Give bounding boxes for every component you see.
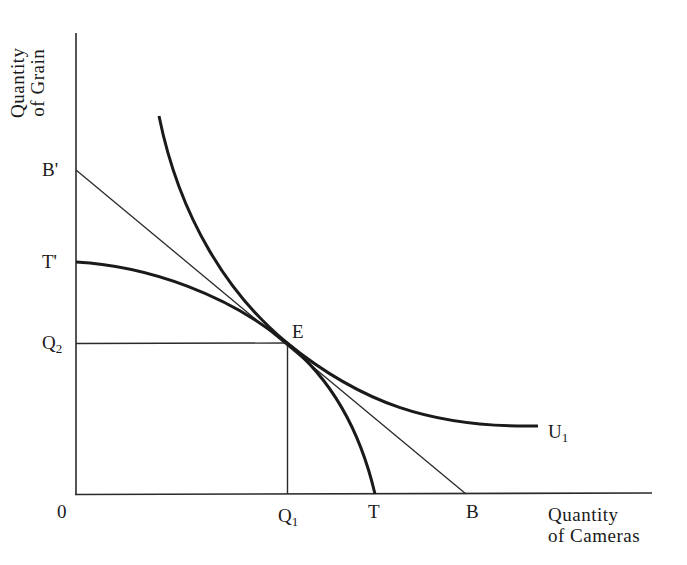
- q2-guide-line: [76, 343, 287, 344]
- x-axis-label-line1: Quantity: [548, 504, 640, 525]
- label-t-prime: T': [42, 252, 57, 271]
- y-axis-label-line2: of Grain: [28, 48, 48, 119]
- label-e: E: [292, 322, 304, 341]
- label-u1-main: U: [548, 421, 562, 442]
- label-u1: U1: [548, 422, 568, 444]
- diagram-canvas: [0, 0, 687, 565]
- indifference-curve-u1: [159, 116, 538, 426]
- label-q1-main: Q: [278, 505, 292, 526]
- x-axis-label: Quantity of Cameras: [548, 504, 640, 546]
- label-b: B: [466, 502, 479, 521]
- label-origin: 0: [57, 502, 67, 521]
- label-q1-sub: 1: [292, 514, 299, 529]
- production-possibility-curve: [76, 262, 375, 494]
- label-u1-sub: 1: [562, 430, 569, 445]
- label-b-prime: B': [42, 160, 58, 179]
- label-q2: Q2: [42, 333, 62, 355]
- x-axis-label-line2: of Cameras: [548, 525, 640, 546]
- label-t: T: [368, 502, 380, 521]
- y-axis-label: Quantity of Grain: [8, 48, 48, 119]
- x-axis: [75, 493, 652, 495]
- y-axis-label-line1: Quantity: [8, 48, 28, 119]
- label-q2-main: Q: [42, 332, 56, 353]
- label-q1: Q1: [278, 506, 298, 528]
- label-q2-sub: 2: [56, 341, 63, 356]
